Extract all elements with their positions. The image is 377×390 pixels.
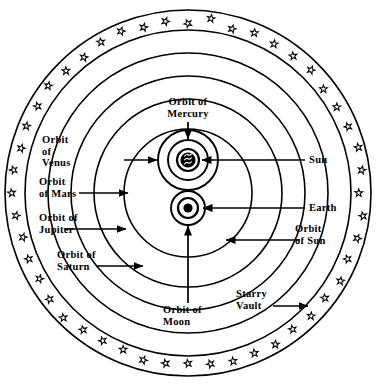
label-orbit-of-jupiter: Orbit of Jupiter: [39, 212, 113, 235]
vault-star: [250, 28, 258, 36]
label-orbit-of-mars: Orbit of Mars: [39, 176, 109, 199]
vault-star: [119, 345, 127, 353]
vault-star: [342, 254, 352, 264]
vault-star: [354, 143, 363, 152]
vault-star: [161, 16, 171, 26]
vault-star: [24, 254, 34, 263]
vault-star: [7, 188, 16, 196]
label-orbit-of-venus: Orbit of Venus: [42, 134, 102, 169]
label-starry-vault: Starry Vault: [236, 288, 296, 311]
vault-star: [18, 232, 28, 241]
vault-star: [343, 121, 353, 131]
label-earth: Earth: [309, 202, 359, 214]
vault-star: [271, 340, 279, 348]
vault-star: [250, 349, 259, 357]
label-orbit-of-mercury: Orbit of Mercury: [150, 96, 226, 119]
vault-star: [306, 65, 316, 75]
vault-star: [307, 312, 315, 320]
vault-star: [116, 26, 125, 35]
vault-star: [270, 39, 279, 47]
vault-star: [78, 325, 87, 334]
vault-star: [319, 85, 327, 92]
vault-star: [205, 359, 215, 369]
vault-star: [33, 101, 42, 110]
vault-star: [138, 355, 148, 365]
vault-star: [207, 14, 216, 23]
vault-star: [336, 276, 345, 285]
label-orbit-of-moon: Orbit of Moon: [163, 304, 239, 327]
vault-star: [289, 51, 298, 59]
vault-star: [333, 103, 341, 111]
vault-star: [59, 313, 68, 321]
vault-star: [11, 211, 20, 220]
vault-star: [62, 67, 70, 75]
tychonic-system-diagram: Orbit of Mercury Orbit of Venus Orbit of…: [0, 0, 377, 390]
vault-star: [183, 18, 193, 28]
label-orbit-of-saturn: Orbit of Saturn: [57, 249, 131, 272]
vault-star: [183, 359, 192, 368]
vault-star: [358, 211, 367, 220]
sun-body: [177, 149, 199, 171]
vault-star: [9, 165, 19, 175]
vault-star: [139, 22, 148, 31]
vault-star: [288, 324, 297, 333]
vault-star: [355, 189, 363, 197]
vault-star: [22, 121, 31, 130]
vault-star: [44, 81, 53, 90]
vault-star: [161, 358, 170, 367]
vault-star: [227, 24, 237, 33]
vault-star: [98, 336, 108, 345]
vault-star: [35, 274, 45, 283]
label-sun: Sun: [309, 154, 349, 166]
vault-star: [16, 143, 26, 152]
vault-star: [79, 52, 88, 61]
vault-star: [96, 37, 105, 46]
vault-star: [357, 165, 366, 174]
vault-star: [44, 294, 54, 304]
earth-body: [178, 198, 198, 218]
vault-star: [229, 357, 238, 365]
label-orbit-of-sun: Orbit of Sun: [295, 223, 357, 246]
vault-star: [321, 294, 330, 302]
